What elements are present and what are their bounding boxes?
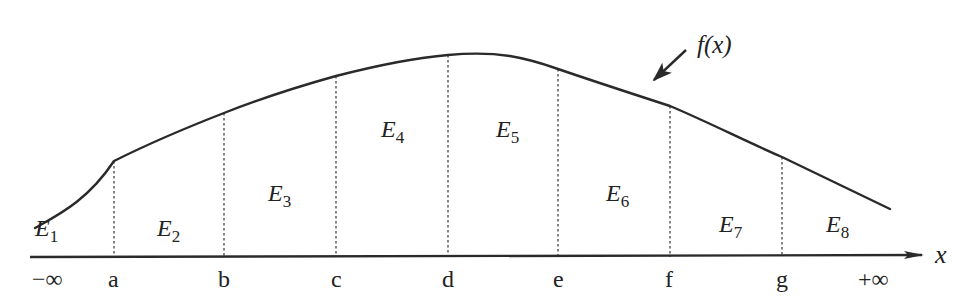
region-label-e3: E3 [267, 180, 291, 211]
partition-lines [114, 55, 782, 257]
function-pointer-arrow [654, 50, 686, 80]
tick-label-d: d [442, 266, 454, 292]
tick-labels: −∞ a b c d e f g +∞ [32, 266, 889, 292]
tick-label-b: b [218, 266, 230, 292]
region-label-e1: E1 [34, 215, 58, 246]
region-label-e5: E5 [495, 116, 519, 147]
tick-label-a: a [108, 266, 119, 292]
x-axis [30, 255, 922, 257]
region-label-e8: E8 [825, 211, 849, 242]
tick-label-f: f [665, 266, 673, 292]
region-label-e4: E4 [380, 116, 405, 147]
tick-label-neg-infinity: −∞ [32, 266, 63, 292]
tick-label-c: c [331, 266, 342, 292]
probability-density-diagram: f(x) x −∞ a b c d e f g +∞ E1 E2 E3 E4 E… [0, 0, 969, 304]
region-label-e6: E6 [605, 180, 629, 211]
density-curve [35, 54, 890, 228]
x-axis-label: x [934, 240, 947, 269]
tick-label-e: e [553, 266, 564, 292]
function-label: f(x) [697, 31, 732, 59]
tick-label-g: g [776, 266, 788, 292]
region-label-e2: E2 [156, 215, 180, 246]
region-label-e7: E7 [718, 211, 743, 242]
region-labels: E1 E2 E3 E4 E5 E6 E7 E8 [34, 116, 849, 246]
tick-label-pos-infinity: +∞ [858, 266, 889, 292]
